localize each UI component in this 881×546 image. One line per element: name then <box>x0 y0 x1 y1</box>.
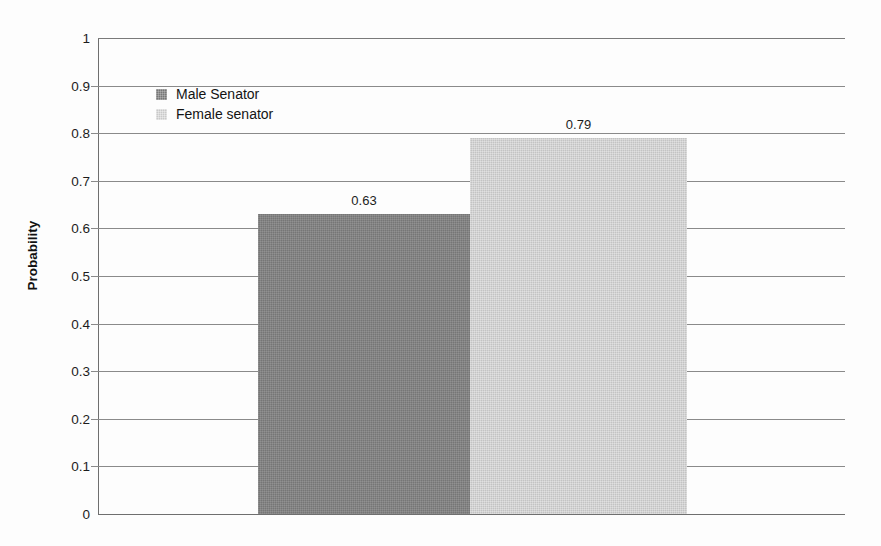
gridline <box>98 38 845 39</box>
y-tick-mark <box>91 276 98 277</box>
legend: Male Senator Female senator <box>156 86 273 122</box>
bar-chart-figure: Probability 1 0.9 0.8 0.7 0.6 0.5 0.4 0.… <box>0 0 881 546</box>
legend-label: Female senator <box>176 106 273 122</box>
y-tick-mark <box>91 86 98 87</box>
y-tick-label: 0 <box>30 507 90 522</box>
bar-value-label-female: 0.79 <box>470 117 687 132</box>
male-legend-swatch-icon <box>156 89 167 100</box>
bar-male-senator[interactable] <box>258 214 470 514</box>
y-tick-mark <box>91 228 98 229</box>
y-tick-mark <box>91 133 98 134</box>
x-axis-baseline <box>98 514 845 515</box>
y-tick-label: 1 <box>30 31 90 46</box>
bar-value-label-male: 0.63 <box>258 193 470 208</box>
legend-item-male-senator[interactable]: Male Senator <box>156 86 273 102</box>
y-tick-label: 0.7 <box>30 173 90 188</box>
y-tick-mark <box>91 371 98 372</box>
y-tick-mark <box>91 466 98 467</box>
y-tick-mark <box>91 419 98 420</box>
y-tick-label: 0.5 <box>30 269 90 284</box>
gridline <box>98 133 845 134</box>
y-tick-label: 0.4 <box>30 316 90 331</box>
y-tick-label: 0.2 <box>30 411 90 426</box>
legend-label: Male Senator <box>176 86 259 102</box>
y-tick-mark <box>91 324 98 325</box>
bar-female-senator[interactable] <box>470 138 687 514</box>
y-tick-label: 0.3 <box>30 364 90 379</box>
y-axis-tick-labels: 1 0.9 0.8 0.7 0.6 0.5 0.4 0.3 0.2 0.1 0 <box>20 0 90 546</box>
female-legend-swatch-icon <box>156 109 167 120</box>
legend-item-female-senator[interactable]: Female senator <box>156 106 273 122</box>
y-tick-label: 0.9 <box>30 78 90 93</box>
y-tick-label: 0.6 <box>30 221 90 236</box>
y-tick-label: 0.1 <box>30 459 90 474</box>
y-tick-mark <box>91 181 98 182</box>
y-tick-label: 0.8 <box>30 126 90 141</box>
